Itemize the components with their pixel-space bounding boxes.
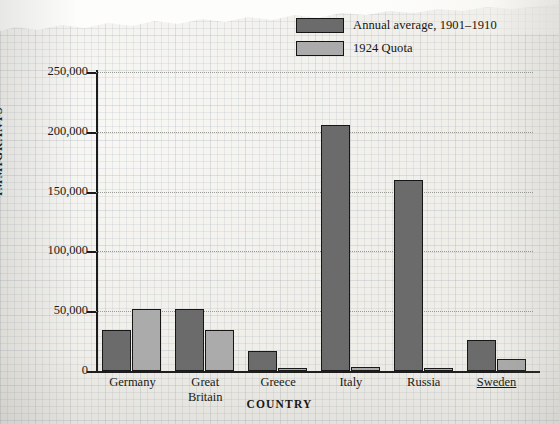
x-tick-label: Germany <box>96 375 169 390</box>
bar-group <box>248 72 308 371</box>
x-tick-label-line: Greece <box>242 375 315 390</box>
legend-item: Annual average, 1901–1910 <box>296 16 497 35</box>
bar <box>394 180 423 371</box>
legend-swatch <box>296 41 344 56</box>
legend-label: 1924 Quota <box>353 41 413 56</box>
bar <box>497 359 526 371</box>
bar-group <box>102 72 162 371</box>
x-tick-label: Italy <box>315 375 388 390</box>
y-tick-label: 50,000 <box>0 303 88 318</box>
bar-group <box>394 72 454 371</box>
y-tick-mark <box>87 132 96 134</box>
x-tick-label-line: Russia <box>387 375 460 390</box>
bar <box>205 330 234 371</box>
y-tick-mark <box>87 192 96 194</box>
y-tick-label: 250,000 <box>0 64 88 79</box>
bar <box>351 367 380 371</box>
x-tick-label-line: Sweden <box>460 375 533 390</box>
y-tick-label: 0 <box>0 363 88 378</box>
chart-legend: Annual average, 1901–19101924 Quota <box>296 16 497 62</box>
bar <box>321 125 350 371</box>
x-tick-label-line: Italy <box>315 375 388 390</box>
legend-item: 1924 Quota <box>296 39 497 58</box>
x-tick-label: Sweden <box>460 375 533 390</box>
bar <box>132 309 161 371</box>
x-tick-label-line: Germany <box>96 375 169 390</box>
legend-label: Annual average, 1901–1910 <box>353 18 497 33</box>
bar-group <box>175 72 235 371</box>
y-tick-label: 200,000 <box>0 124 88 139</box>
bar <box>102 330 131 371</box>
x-tick-label-line: Great <box>169 375 242 390</box>
y-tick-label: 150,000 <box>0 184 88 199</box>
bar <box>467 340 496 371</box>
y-tick-mark <box>87 72 96 74</box>
y-axis-labels: 050,000100,000150,000200,000250,000 <box>0 72 96 371</box>
y-tick-mark <box>87 371 96 373</box>
y-tick-label: 100,000 <box>0 243 88 258</box>
bar-group <box>321 72 381 371</box>
y-tick-mark <box>87 311 96 313</box>
bar <box>278 368 307 371</box>
bar <box>424 368 453 371</box>
x-tick-label: GreatBritain <box>169 375 242 404</box>
x-axis-labels: GermanyGreatBritainGreeceItalyRussiaSwed… <box>96 375 533 419</box>
bar-series-container <box>96 72 533 371</box>
x-tick-label: Greece <box>242 375 315 390</box>
bar <box>248 351 277 371</box>
bar <box>175 309 204 371</box>
x-tick-label-line: Britain <box>169 390 242 405</box>
plot-area <box>96 72 533 371</box>
bar-group <box>467 72 527 371</box>
x-tick-label: Russia <box>387 375 460 390</box>
legend-swatch <box>296 18 344 33</box>
x-axis-line <box>88 371 540 373</box>
y-tick-mark <box>87 251 96 253</box>
